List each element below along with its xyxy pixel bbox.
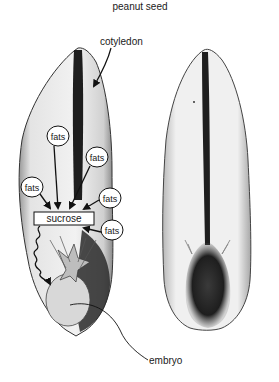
fats-bubble-3: fats [21, 177, 43, 197]
svg-text:fats: fats [25, 183, 40, 193]
fats-bubble-2: fats [86, 147, 108, 167]
fats-bubble-1: fats [47, 126, 69, 146]
diagram-title: peanut seed [112, 1, 167, 12]
right-seed-dot [193, 101, 195, 103]
cotyledon-label: cotyledon [100, 36, 143, 47]
sucrose-label: sucrose [46, 213, 81, 224]
svg-text:fats: fats [103, 194, 118, 204]
right-seed-half [163, 49, 251, 330]
left-seed-groove [73, 50, 83, 200]
svg-text:fats: fats [51, 132, 66, 142]
embryo-region [46, 274, 90, 326]
fats-bubble-5: fats [101, 220, 123, 240]
svg-text:fats: fats [90, 153, 105, 163]
peanut-seed-diagram: peanut seed cotyledon sucrose fats fats … [0, 0, 279, 382]
fats-bubble-4: fats [99, 188, 121, 208]
embryo-label: embryo [149, 355, 183, 366]
sucrose-box: sucrose [34, 212, 94, 225]
svg-text:fats: fats [105, 226, 120, 236]
